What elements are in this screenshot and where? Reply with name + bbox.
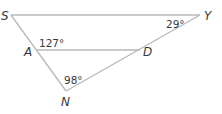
vertex-label-y: Y [204,9,213,23]
vertex-label-d: D [143,45,152,59]
segment-sn [11,15,66,91]
triangle-diagram: S Y A D N 29° 127° 98° [0,0,222,114]
vertex-label-n: N [61,95,70,109]
angle-label-n: 98° [64,74,83,86]
vertex-label-a: A [23,45,32,59]
vertex-label-s: S [1,9,9,23]
angle-label-a: 127° [39,37,64,49]
angle-label-y: 29° [166,18,185,30]
